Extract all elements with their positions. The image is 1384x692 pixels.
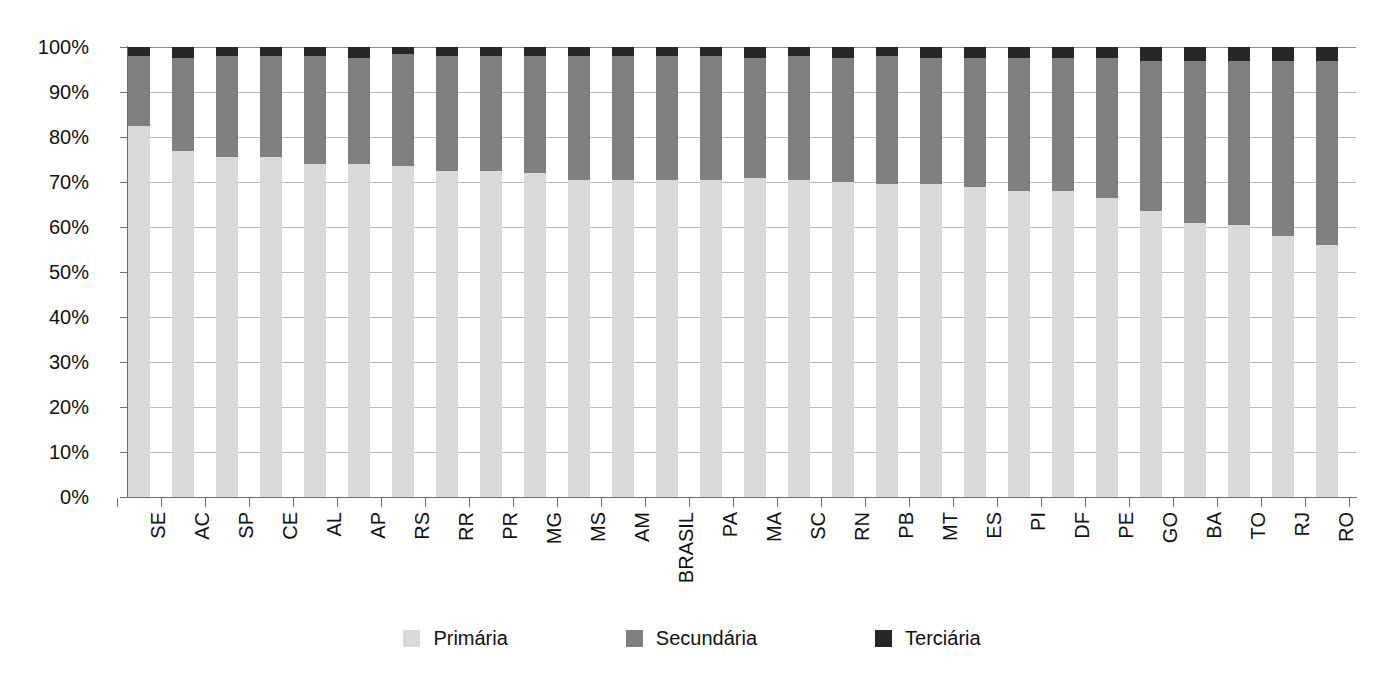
bar-stack xyxy=(832,47,854,497)
bar-segment-primria xyxy=(128,126,150,497)
x-axis-tick-label: CE xyxy=(279,512,301,642)
bar-segment-primria xyxy=(172,151,194,498)
legend-item-secundria[interactable]: Secundária xyxy=(626,628,757,648)
x-axis-tick xyxy=(645,498,646,507)
bar-segment-secundria xyxy=(876,56,898,184)
bar-pe[interactable] xyxy=(1096,47,1118,497)
x-axis-tick xyxy=(161,498,162,507)
bar-stack xyxy=(1228,47,1250,497)
bar-segment-terciria xyxy=(832,47,854,58)
x-axis-tick-label: MS xyxy=(587,512,609,642)
bar-segment-primria xyxy=(348,164,370,497)
x-axis-tick-label: MA xyxy=(763,512,785,642)
bar-pi[interactable] xyxy=(1008,47,1030,497)
y-axis-tick xyxy=(120,362,127,363)
bar-sp[interactable] xyxy=(216,47,238,497)
x-axis-tick-label: PA xyxy=(719,512,741,642)
bar-to[interactable] xyxy=(1228,47,1250,497)
bar-segment-primria xyxy=(1272,236,1294,497)
bar-segment-terciria xyxy=(524,47,546,56)
bar-segment-terciria xyxy=(260,47,282,56)
bar-segment-secundria xyxy=(700,56,722,180)
x-axis-tick xyxy=(1041,498,1042,507)
bar-segment-terciria xyxy=(788,47,810,56)
bar-rr[interactable] xyxy=(436,47,458,497)
bar-segment-secundria xyxy=(1052,58,1074,191)
bar-mg[interactable] xyxy=(524,47,546,497)
bar-rs[interactable] xyxy=(392,47,414,497)
legend-item-terciria[interactable]: Terciária xyxy=(875,628,981,648)
bar-segment-secundria xyxy=(480,56,502,171)
y-axis-tick xyxy=(120,137,127,138)
bar-segment-primria xyxy=(788,180,810,497)
x-axis-tick xyxy=(205,498,206,507)
x-axis-tick xyxy=(1085,498,1086,507)
bar-rn[interactable] xyxy=(832,47,854,497)
bar-ms[interactable] xyxy=(568,47,590,497)
bar-es[interactable] xyxy=(964,47,986,497)
bar-segment-terciria xyxy=(1008,47,1030,58)
y-axis-tick-label: 100% xyxy=(11,37,89,57)
x-axis-tick xyxy=(381,498,382,507)
bar-pa[interactable] xyxy=(700,47,722,497)
legend-swatch-icon xyxy=(875,630,892,647)
y-axis-tick-label: 10% xyxy=(11,442,89,462)
bar-ma[interactable] xyxy=(744,47,766,497)
y-axis-tick xyxy=(120,182,127,183)
bar-mt[interactable] xyxy=(920,47,942,497)
bar-segment-secundria xyxy=(1140,61,1162,212)
bar-segment-primria xyxy=(392,166,414,497)
bar-se[interactable] xyxy=(128,47,150,497)
legend-item-primria[interactable]: Primária xyxy=(403,628,507,648)
bar-stack xyxy=(1272,47,1294,497)
bar-ac[interactable] xyxy=(172,47,194,497)
bar-segment-terciria xyxy=(1272,47,1294,61)
bar-segment-terciria xyxy=(348,47,370,58)
bar-df[interactable] xyxy=(1052,47,1074,497)
bar-segment-primria xyxy=(920,184,942,497)
bar-stack xyxy=(260,47,282,497)
bar-rj[interactable] xyxy=(1272,47,1294,497)
bar-segment-secundria xyxy=(1184,61,1206,223)
bar-am[interactable] xyxy=(612,47,634,497)
bar-ap[interactable] xyxy=(348,47,370,497)
x-axis-tick-label: BRASIL xyxy=(675,512,697,642)
y-axis-tick-label: 80% xyxy=(11,127,89,147)
bar-ro[interactable] xyxy=(1316,47,1338,497)
bar-segment-primria xyxy=(744,178,766,498)
bar-stack xyxy=(1096,47,1118,497)
bar-sc[interactable] xyxy=(788,47,810,497)
x-axis-tick xyxy=(953,498,954,507)
legend-label: Secundária xyxy=(656,628,757,648)
y-axis-tick-label: 50% xyxy=(11,262,89,282)
bar-stack xyxy=(436,47,458,497)
bar-segment-terciria xyxy=(656,47,678,56)
x-axis-tick-label: SP xyxy=(235,512,257,642)
chart-legend: PrimáriaSecundáriaTerciária xyxy=(0,628,1384,648)
y-axis-tick xyxy=(120,497,127,498)
legend-swatch-icon xyxy=(403,630,420,647)
bar-segment-terciria xyxy=(700,47,722,56)
bar-segment-terciria xyxy=(392,47,414,54)
bar-brasil[interactable] xyxy=(656,47,678,497)
y-axis-tick-label: 60% xyxy=(11,217,89,237)
x-axis-tick xyxy=(865,498,866,507)
bar-segment-primria xyxy=(612,180,634,497)
bar-ce[interactable] xyxy=(260,47,282,497)
bar-segment-terciria xyxy=(744,47,766,58)
bar-pb[interactable] xyxy=(876,47,898,497)
bar-segment-terciria xyxy=(1316,47,1338,61)
y-axis-tick xyxy=(120,407,127,408)
bar-pr[interactable] xyxy=(480,47,502,497)
bar-stack xyxy=(920,47,942,497)
bar-go[interactable] xyxy=(1140,47,1162,497)
x-axis-tick xyxy=(1261,498,1262,507)
bar-segment-secundria xyxy=(524,56,546,173)
bar-ba[interactable] xyxy=(1184,47,1206,497)
bar-segment-primria xyxy=(480,171,502,497)
x-axis-tick-label: AL xyxy=(323,512,345,642)
bar-al[interactable] xyxy=(304,47,326,497)
x-axis-tick-label: RN xyxy=(851,512,873,642)
x-axis-tick xyxy=(1217,498,1218,507)
bar-stack xyxy=(480,47,502,497)
